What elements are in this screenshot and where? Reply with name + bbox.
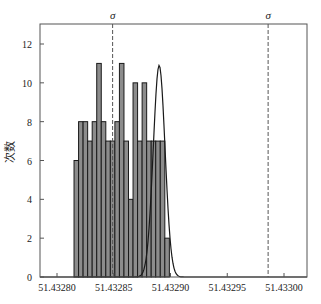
y-tick-label: 2	[27, 233, 32, 244]
sigma-label: σ	[265, 9, 271, 21]
histogram-bar	[156, 141, 161, 277]
histogram-bar	[119, 63, 124, 277]
x-tick-label: 51.43290	[152, 282, 190, 293]
histogram-bar	[138, 141, 143, 277]
y-tick-label: 8	[27, 117, 32, 128]
histogram-bar	[151, 141, 156, 277]
histogram-bar	[83, 122, 88, 277]
histogram-bar	[160, 141, 165, 277]
histogram-bar	[129, 199, 134, 277]
histogram-bar	[92, 122, 97, 277]
histogram-bar	[110, 141, 115, 277]
y-tick-label: 10	[22, 78, 32, 89]
histogram-bar	[124, 141, 129, 277]
sigma-label: σ	[110, 9, 116, 21]
y-axis-label: 次数	[3, 141, 17, 163]
histogram-bar	[115, 122, 120, 277]
histogram-bar	[101, 122, 106, 277]
histogram-bar	[106, 141, 111, 277]
y-tick-label: 0	[27, 272, 32, 283]
y-tick-label: 12	[22, 39, 32, 50]
x-tick-label: 51.43295	[209, 282, 247, 293]
histogram-bar	[142, 83, 147, 277]
histogram-bar	[88, 141, 93, 277]
histogram-bar	[79, 122, 84, 277]
histogram-bars	[74, 63, 169, 277]
y-tick-label: 6	[27, 156, 32, 167]
x-tick-label: 51.43300	[265, 282, 303, 293]
histogram-bar	[97, 63, 102, 277]
x-tick-label: 51.43285	[95, 282, 133, 293]
x-tick-label: 51.43280	[38, 282, 76, 293]
histogram-bar	[133, 83, 138, 277]
y-tick-label: 4	[27, 194, 32, 205]
histogram-chart: σσ 024681012 51.4328051.4328551.4329051.…	[0, 0, 321, 304]
histogram-bar	[165, 238, 170, 277]
y-axis: 024681012	[22, 39, 44, 283]
histogram-bar	[74, 161, 79, 278]
